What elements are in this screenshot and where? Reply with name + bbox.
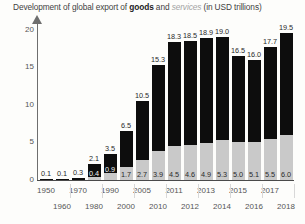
- bar-total-value-label: 19.5: [279, 23, 293, 32]
- stacked-bar[interactable]: 5.319.0: [216, 37, 229, 180]
- y-tick-label: 15: [14, 62, 34, 71]
- bar-slot: 2.710.5: [134, 22, 150, 180]
- x-tick-label: 1980: [80, 202, 108, 211]
- stacked-bar[interactable]: 5.016.5: [232, 56, 245, 180]
- x-tick-label: 2005: [128, 186, 156, 195]
- x-axis-line: [37, 180, 294, 181]
- bar-slot: 4.618.5: [182, 22, 198, 180]
- x-axis-separator: [166, 184, 167, 198]
- stacked-bar[interactable]: 4.518.3: [168, 42, 181, 180]
- stacked-bar[interactable]: 4.918.9: [200, 38, 213, 180]
- x-tick-label: 1960: [48, 202, 76, 211]
- bar-segment-goods: [184, 41, 197, 146]
- y-tick-label: 20: [14, 25, 34, 34]
- bar-segment-goods: [200, 38, 213, 143]
- x-tick-label: 1950: [32, 186, 60, 195]
- stacked-bar[interactable]: 1.76.5: [120, 131, 133, 180]
- stacked-bar[interactable]: 5.517.7: [264, 47, 277, 180]
- bar-segment-goods: [120, 131, 133, 167]
- x-tick-label: 2010: [144, 202, 172, 211]
- bar-services-value-label: 4.9: [201, 170, 211, 179]
- bar-total-value-label: 0.1: [57, 169, 67, 178]
- bar-total-value-label: 10.5: [135, 91, 149, 100]
- bar-segment-goods: [136, 101, 149, 160]
- bar-services-value-label: 1.7: [121, 170, 131, 179]
- bar-total-value-label: 15.3: [151, 55, 165, 64]
- bar-total-value-label: 16.5: [231, 46, 245, 55]
- stacked-bar[interactable]: 0.93.5: [104, 154, 117, 180]
- title-suffix: (in USD trillions): [201, 2, 261, 12]
- bar-segment-services: 2.7: [136, 160, 149, 180]
- bar-slot: 0.93.5: [102, 22, 118, 180]
- bar-services-value-label: 5.3: [217, 170, 227, 179]
- x-tick-label: 2015: [224, 186, 252, 195]
- bar-slot: 0.42.1: [86, 22, 102, 180]
- bar-total-value-label: 0.3: [73, 168, 83, 177]
- bar-segment-goods: [152, 65, 165, 151]
- bar-segment-services: 5.1: [248, 142, 261, 180]
- bar-total-value-label: 18.5: [183, 31, 197, 40]
- x-tick-label: 2013: [192, 186, 220, 195]
- x-axis-separator: [262, 184, 263, 198]
- bar-segment-goods: [40, 179, 53, 181]
- bar-segment-services: 0.4: [88, 177, 101, 180]
- bar-segment-services: 5.3: [216, 140, 229, 180]
- bar-segment-goods: [168, 42, 181, 146]
- stacked-bar[interactable]: 0.1: [40, 179, 53, 181]
- bar-services-value-label: 0.9: [105, 165, 115, 174]
- x-axis-separator: [294, 184, 295, 198]
- stacked-bar[interactable]: 4.618.5: [184, 41, 197, 180]
- chart-title: Development of global export of goods an…: [13, 2, 262, 12]
- bar-segment-services: 4.6: [184, 145, 197, 180]
- stacked-bar[interactable]: 0.42.1: [88, 164, 101, 180]
- bar-services-value-label: 5.5: [265, 170, 275, 179]
- bar-total-value-label: 19.0: [215, 27, 229, 36]
- title-prefix: Development of global export of: [13, 2, 129, 12]
- stacked-bar[interactable]: 2.710.5: [136, 101, 149, 180]
- bar-segment-goods: [216, 37, 229, 140]
- bar-segment-goods: [56, 179, 69, 181]
- bar-slot: 4.918.9: [198, 22, 214, 180]
- x-tick-label: 2012: [176, 202, 204, 211]
- x-axis-separator: [230, 184, 231, 198]
- bar-segment-services: 1.7: [120, 167, 133, 180]
- plot-area: 0.10.10.30.42.10.93.51.76.52.710.53.915.…: [38, 22, 294, 180]
- x-axis-separator: [134, 184, 135, 198]
- x-tick-label: 2011: [160, 186, 188, 195]
- bar-services-value-label: 6.0: [281, 170, 291, 179]
- bar-slot: 5.116.0: [246, 22, 262, 180]
- bar-total-value-label: 2.1: [89, 154, 99, 163]
- bar-slot: 5.319.0: [214, 22, 230, 180]
- stacked-bar[interactable]: 0.3: [72, 178, 85, 180]
- bar-total-value-label: 18.3: [167, 32, 181, 41]
- bar-slot: 0.3: [70, 22, 86, 180]
- title-goods-legend: goods: [129, 2, 153, 12]
- x-axis-separator: [70, 184, 71, 198]
- bar-slot: 4.518.3: [166, 22, 182, 180]
- bar-total-value-label: 18.9: [199, 28, 213, 37]
- x-axis-separator: [102, 184, 103, 198]
- stacked-bar[interactable]: 0.1: [56, 179, 69, 181]
- bar-segment-services: 4.5: [168, 146, 181, 180]
- bar-segment-goods: [248, 60, 261, 142]
- bar-total-value-label: 16.0: [247, 50, 261, 59]
- title-services-legend: services: [172, 2, 202, 12]
- x-tick-label: 2017: [256, 186, 284, 195]
- stacked-bar[interactable]: 6.019.5: [280, 33, 293, 180]
- bar-slot: 0.1: [38, 22, 54, 180]
- bar-slot: 0.1: [54, 22, 70, 180]
- bar-total-value-label: 3.5: [105, 144, 115, 153]
- x-tick-label: 2018: [272, 202, 300, 211]
- bar-slot: 6.019.5: [278, 22, 294, 180]
- bar-total-value-label: 17.7: [263, 37, 277, 46]
- bar-services-value-label: 5.1: [249, 170, 259, 179]
- bar-segment-goods: [264, 47, 277, 139]
- bar-segment-goods: [232, 56, 245, 143]
- stacked-bar[interactable]: 5.116.0: [248, 60, 261, 180]
- bar-services-value-label: 5.0: [233, 170, 243, 179]
- stacked-bar[interactable]: 3.915.3: [152, 65, 165, 180]
- bar-slot: 3.915.3: [150, 22, 166, 180]
- bar-segment-services: 5.0: [232, 142, 245, 180]
- bar-total-value-label: 6.5: [121, 121, 131, 130]
- bar-segment-services: 0.9: [104, 173, 117, 180]
